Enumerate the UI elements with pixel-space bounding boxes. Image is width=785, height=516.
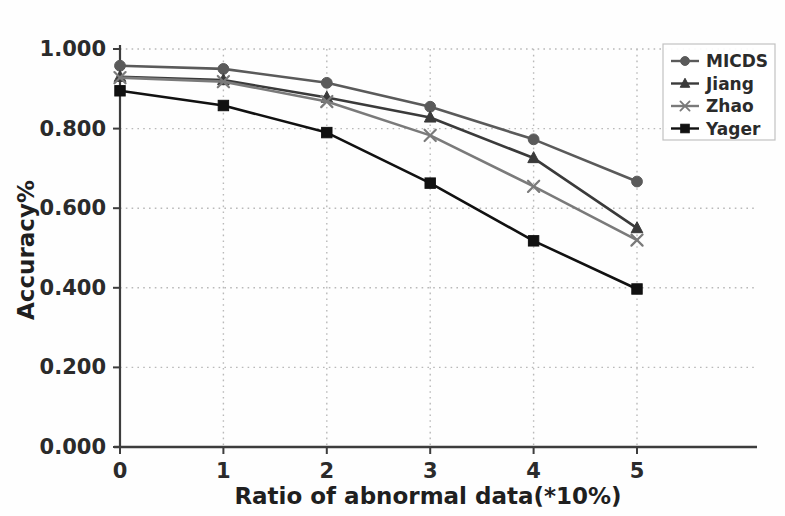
data-point-square [322,127,332,137]
legend-label: Yager [705,119,761,139]
data-point-circle [681,57,690,66]
line-chart: 0.0000.2000.4000.6000.8001.000012345 MIC… [0,0,785,516]
legend-label: Zhao [706,96,754,116]
y-tick-label: 0.600 [40,196,106,220]
y-axis-title: Accuracy% [13,180,39,320]
chart-legend: MICDSJiangZhaoYager [663,44,775,140]
data-point-circle [321,77,332,88]
x-tick-label: 5 [630,459,645,483]
data-point-square [218,100,228,110]
data-point-circle [632,176,643,187]
y-tick-label: 0.800 [40,117,106,141]
chart-figure: 0.0000.2000.4000.6000.8001.000012345 MIC… [0,0,785,516]
data-point-square [425,178,435,188]
x-axis-title: Ratio of abnormal data(*10%) [234,483,621,509]
data-point-square [681,124,690,133]
y-tick-label: 0.000 [40,435,106,459]
y-tick-label: 1.000 [40,37,106,61]
data-point-square [528,236,538,246]
data-point-square [115,86,125,96]
y-tick-label: 0.200 [40,355,106,379]
x-tick-label: 4 [526,459,541,483]
x-tick-label: 2 [319,459,334,483]
data-point-square [632,284,642,294]
data-point-circle [528,134,539,145]
legend-label: Jiang [705,74,754,94]
x-tick-label: 1 [216,459,231,483]
legend-label: MICDS [706,51,768,71]
y-tick-label: 0.400 [40,276,106,300]
x-tick-label: 3 [423,459,438,483]
x-tick-label: 0 [113,459,128,483]
